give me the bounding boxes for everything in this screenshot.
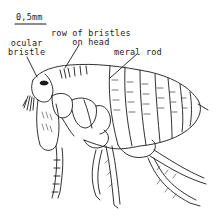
ocular-bristle-label: ocular bristle <box>8 39 45 57</box>
head-bristle-row <box>60 66 87 78</box>
row-of-bristles-line2: on head <box>51 38 131 47</box>
eye <box>40 81 48 85</box>
hind-leg-2 <box>148 158 200 206</box>
front-leg <box>52 146 63 198</box>
ocular-bristle-leader <box>27 57 37 77</box>
mid-leg-1 <box>92 150 102 200</box>
meral-rod-label: meral rod <box>114 48 162 57</box>
abdomen-segments <box>109 66 191 146</box>
row-of-bristles-label: row of bristles on head <box>51 29 131 47</box>
abdomen-bristles <box>112 80 187 114</box>
ocular-bristle-line2: bristle <box>8 48 45 57</box>
front-coxa <box>37 100 59 150</box>
scale-bar-label: 0,5mm <box>16 13 43 22</box>
thorax-plates <box>52 93 111 136</box>
tail-bristle <box>198 104 208 110</box>
palp-bristles <box>23 96 34 111</box>
front-coxa-hatching <box>42 112 52 132</box>
meral-rod-line1: meral rod <box>114 48 162 57</box>
mid-leg-2 <box>106 146 120 208</box>
mid-coxa <box>84 130 109 148</box>
